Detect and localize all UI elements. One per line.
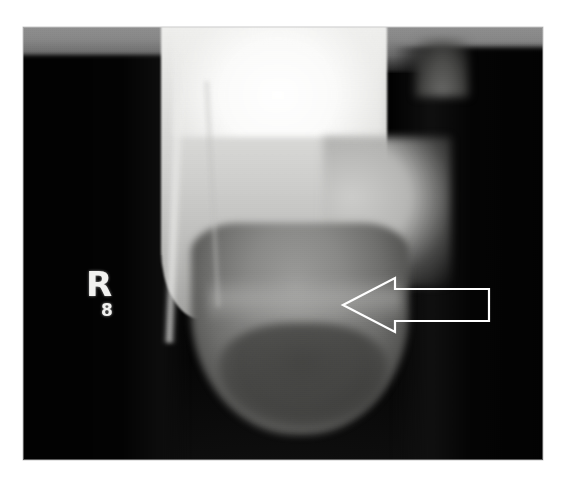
right-side-marker: R xyxy=(86,267,112,301)
soft-tissue-notch xyxy=(415,39,469,97)
radiograph-figure: R 8 xyxy=(0,0,567,480)
radiograph-image: R 8 xyxy=(23,27,543,460)
bone-trabecular-band xyxy=(209,277,401,323)
marker-digit: 8 xyxy=(101,302,113,319)
